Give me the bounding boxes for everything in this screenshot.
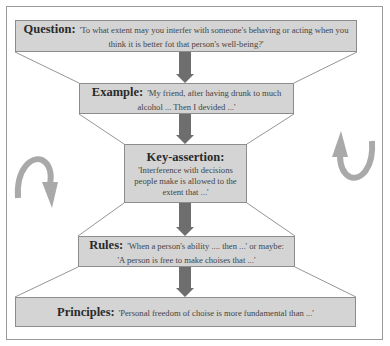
example-label: Example:: [92, 85, 143, 99]
rules-box: Rules: 'When a person's ability .... the…: [78, 236, 295, 267]
curved-arrow-down-icon: [12, 150, 60, 212]
principles-label: Principles:: [57, 305, 115, 319]
curved-arrow-up-icon: [330, 125, 378, 187]
rules-label: Rules:: [89, 238, 123, 252]
key-assertion-text: 'Interference with decisions people make…: [131, 165, 240, 198]
principles-text: 'Personal freedom of choise is more fund…: [119, 308, 314, 318]
question-text: 'To what extent may you interfer with so…: [80, 25, 349, 49]
down-arrow-icon: [175, 267, 195, 298]
down-arrow-icon: [175, 114, 195, 145]
example-box: Example: 'My friend, after having drunk …: [79, 83, 294, 114]
question-box: Question: 'To what extent may you interf…: [15, 20, 357, 52]
down-arrow-icon: [175, 52, 195, 84]
key-assertion-box: Key-assertion: 'Interference with decisi…: [124, 144, 247, 203]
example-text: 'My friend, after having drunk to much a…: [137, 88, 281, 112]
rules-text: 'When a person's ability .... then ...' …: [118, 241, 284, 265]
question-label: Question:: [24, 22, 76, 36]
principles-box: Principles: 'Personal freedom of choise …: [15, 297, 356, 327]
down-arrow-icon: [175, 203, 195, 237]
key-assertion-label: Key-assertion:: [147, 150, 225, 165]
